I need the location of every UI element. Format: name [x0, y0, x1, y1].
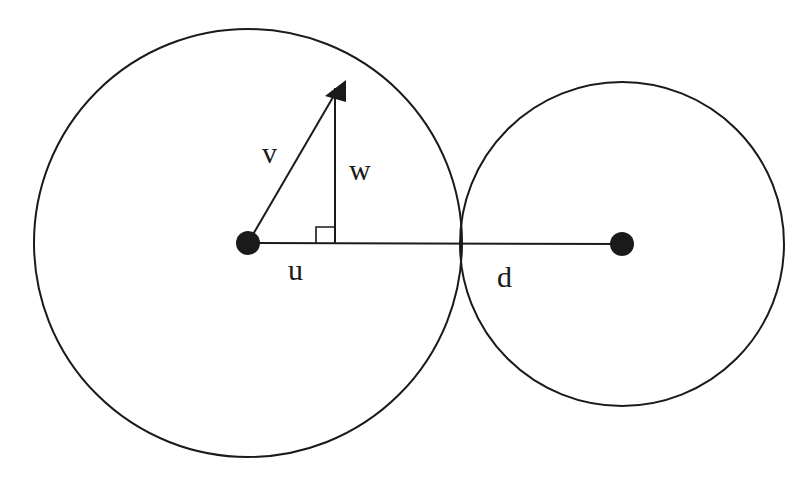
small-center-dot [610, 232, 634, 256]
label-w: w [349, 153, 371, 186]
center-line [248, 243, 622, 244]
label-v: v [262, 136, 277, 169]
right-angle-icon [316, 227, 335, 243]
large-center-dot [236, 231, 260, 255]
label-d: d [497, 260, 512, 293]
label-u: u [288, 253, 303, 286]
diagram-canvas: v w u d [0, 0, 808, 484]
